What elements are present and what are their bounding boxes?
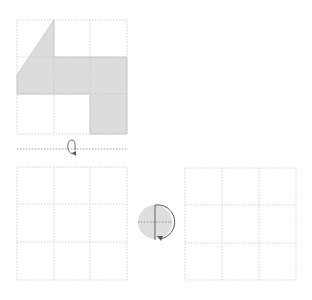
transformation-diagram xyxy=(0,0,312,300)
top-grid xyxy=(17,20,127,134)
flip-arrow-icon xyxy=(68,140,76,156)
bottom-right-grid xyxy=(185,168,296,280)
half-turn-rotation-icon xyxy=(138,205,175,241)
shaded-shape xyxy=(17,20,127,134)
bottom-left-grid xyxy=(17,167,127,280)
